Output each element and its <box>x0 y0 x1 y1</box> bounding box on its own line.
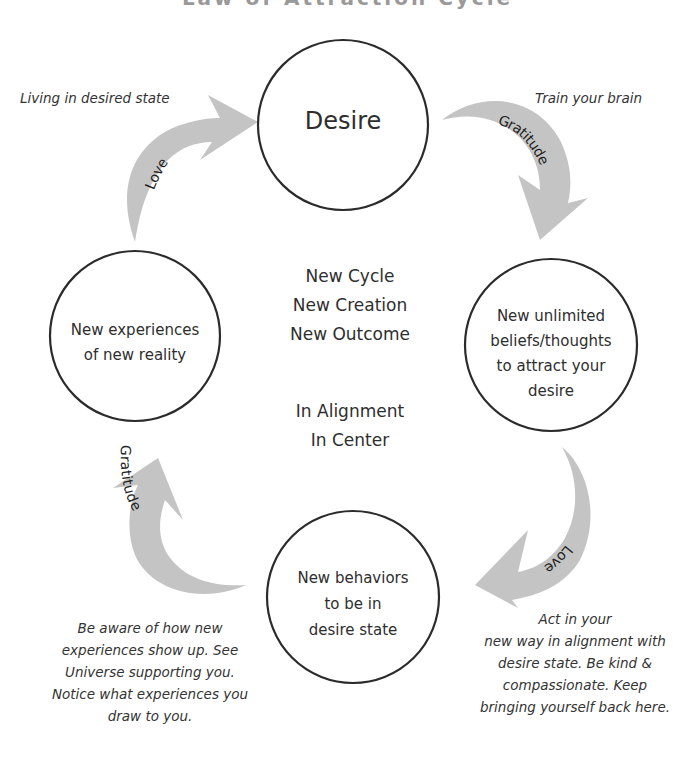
note-line: Notice what experiences you <box>35 683 265 705</box>
note-bottom-right: Act in your new way in alignment with de… <box>455 608 695 718</box>
node-beliefs-line: desire <box>465 379 637 404</box>
note-line: Be aware of how new <box>35 617 265 639</box>
note-line: Living in desired state <box>20 90 170 106</box>
arrow-top-right: Gratitude <box>442 101 588 240</box>
note-line: new way in alignment with <box>455 630 695 652</box>
node-behaviors: New behaviors to be in desire state <box>267 565 439 643</box>
node-beliefs-line: New unlimited <box>465 304 637 329</box>
node-behaviors-line: to be in <box>267 591 439 617</box>
arrow-bottom-right: Love <box>475 447 590 608</box>
node-beliefs-line: beliefs/thoughts <box>465 329 637 354</box>
note-line: experiences show up. See <box>35 639 265 661</box>
node-beliefs-line: to attract your <box>465 354 637 379</box>
center-line: New Cycle <box>255 262 445 291</box>
note-bottom-left: Be aware of how new experiences show up.… <box>35 617 265 727</box>
center-alignment-text: In Alignment In Center <box>255 397 445 455</box>
node-experiences-line: of new reality <box>50 343 220 368</box>
center-line: In Center <box>255 426 445 455</box>
note-line: desire state. Be kind & <box>455 652 695 674</box>
node-desire: Desire <box>258 107 428 135</box>
center-cycle-text: New Cycle New Creation New Outcome <box>255 262 445 349</box>
node-desire-label: Desire <box>258 107 428 135</box>
center-line: New Outcome <box>255 320 445 349</box>
note-top-left: Living in desired state <box>20 87 200 109</box>
arrow-top-left: Love <box>127 95 258 242</box>
center-line: New Creation <box>255 291 445 320</box>
node-experiences: New experiences of new reality <box>50 318 220 368</box>
note-line: Act in your <box>455 608 695 630</box>
node-beliefs: New unlimited beliefs/thoughts to attrac… <box>465 304 637 404</box>
node-behaviors-line: desire state <box>267 617 439 643</box>
note-line: Universe supporting you. <box>35 661 265 683</box>
center-line: In Alignment <box>255 397 445 426</box>
note-line: draw to you. <box>35 705 265 727</box>
arrow-bottom-left: Gratitude <box>113 445 246 594</box>
note-line: bringing yourself back here. <box>455 696 695 718</box>
curved-arrow-icon <box>127 95 258 242</box>
note-top-right: Train your brain <box>535 87 685 109</box>
note-line: compassionate. Keep <box>455 674 695 696</box>
curved-arrow-icon <box>475 447 590 608</box>
node-experiences-line: New experiences <box>50 318 220 343</box>
node-behaviors-line: New behaviors <box>267 565 439 591</box>
note-line: Train your brain <box>535 90 642 106</box>
